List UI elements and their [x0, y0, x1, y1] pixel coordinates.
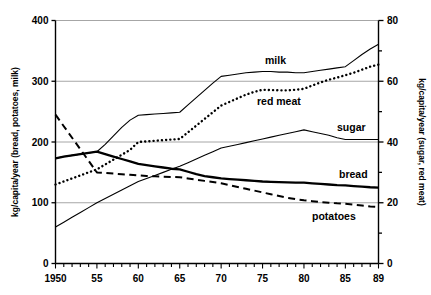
series-line-potatoes	[56, 115, 379, 207]
gridlines	[56, 21, 379, 203]
x-tick-label: 89	[373, 273, 385, 284]
x-tick-label: 55	[91, 273, 103, 284]
x-tick-label: 70	[216, 273, 228, 284]
y-axis-right-ticks: 020406080	[379, 15, 399, 269]
series-label-potatoes: potatoes	[312, 210, 356, 222]
x-tick-label: 85	[340, 273, 352, 284]
y-tick-label-right: 80	[387, 15, 399, 26]
series-line-bread	[56, 152, 379, 188]
y-tick-label-left: 0	[43, 258, 49, 269]
y-tick-label-left: 400	[32, 15, 49, 26]
y-tick-label-right: 40	[387, 137, 399, 148]
series-lines	[56, 44, 379, 227]
x-tick-label: 80	[298, 273, 310, 284]
x-axis-ticks: 19505560657075808589	[44, 264, 384, 284]
y-axis-left-ticks: 0100200300400	[32, 15, 56, 269]
y-tick-label-right: 60	[387, 76, 399, 87]
y-tick-label-right: 20	[387, 197, 399, 208]
x-tick-label: 75	[257, 273, 269, 284]
y-axis-left-title: kg/capita/year (bread, potatoes, milk)	[10, 67, 20, 217]
series-line-milk	[56, 44, 379, 158]
y-tick-label-left: 100	[32, 197, 49, 208]
x-tick-label: 60	[133, 273, 145, 284]
y-tick-label-right: 0	[387, 258, 393, 269]
y-tick-label-left: 300	[32, 76, 49, 87]
series-label-red-meat: red meat	[257, 95, 301, 107]
y-tick-label-left: 200	[32, 137, 49, 148]
chart-container: 0100200300400020406080195055606570758085…	[0, 0, 431, 295]
series-label-bread: bread	[339, 168, 368, 180]
x-tick-label: 65	[174, 273, 186, 284]
series-labels: milkred meatsugarbreadpotatoes	[257, 54, 368, 222]
line-chart: 0100200300400020406080195055606570758085…	[0, 0, 431, 295]
series-line-red-meat	[56, 65, 379, 185]
y-axis-right-title: kg/capita/year (sugar, red meat)	[417, 78, 427, 206]
series-label-milk: milk	[265, 54, 286, 66]
series-label-sugar: sugar	[337, 121, 366, 133]
x-tick-label: 1950	[44, 273, 67, 284]
